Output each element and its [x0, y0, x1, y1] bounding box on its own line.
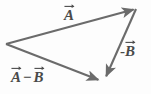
vector-neg-b-row: - B: [120, 39, 135, 59]
subtraction-operator: −: [21, 70, 34, 85]
vector-a-symbol-2: A: [11, 70, 21, 85]
vector-a-minus-b-label: A − B: [11, 65, 44, 85]
vector-a-term: A: [64, 3, 74, 23]
vector-diagram-figure: A - B A −: [0, 0, 151, 94]
vector-b-term: B: [125, 39, 135, 59]
vector-b-term-2: B: [34, 65, 44, 85]
vector-b-symbol: B: [125, 44, 135, 59]
vector-a-label: A: [64, 3, 74, 23]
vector-neg-b-label: - B: [120, 39, 135, 59]
vector-a-minus-b-row: A − B: [11, 65, 44, 85]
vector-a-term-2: A: [11, 65, 21, 85]
vector-b-symbol-2: B: [34, 70, 44, 85]
vector-a-symbol: A: [64, 8, 74, 23]
